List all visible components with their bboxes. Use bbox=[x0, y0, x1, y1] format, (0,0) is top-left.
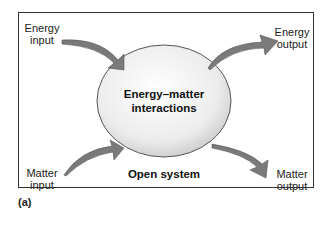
matter-output-line1: Matter bbox=[272, 168, 312, 180]
energy-output-line1: Energy bbox=[272, 26, 312, 38]
matter-output-arrow bbox=[212, 144, 268, 178]
center-label-line1: Energy–matter bbox=[114, 87, 214, 101]
energy-input-line2: input bbox=[22, 34, 62, 46]
matter-input-line2: input bbox=[22, 179, 62, 191]
center-label-line2: interactions bbox=[114, 101, 214, 115]
matter-output-label: Matter output bbox=[272, 168, 312, 192]
center-label: Energy–matter interactions bbox=[114, 87, 214, 115]
energy-input-line1: Energy bbox=[22, 22, 62, 34]
energy-output-label: Energy output bbox=[272, 26, 312, 50]
matter-input-label: Matter input bbox=[22, 167, 62, 191]
energy-output-arrow bbox=[208, 35, 278, 70]
energy-input-label: Energy input bbox=[22, 22, 62, 46]
matter-input-line1: Matter bbox=[22, 167, 62, 179]
system-title: Open system bbox=[114, 168, 214, 180]
energy-output-line2: output bbox=[272, 38, 312, 50]
figure-caption: (a) bbox=[18, 196, 31, 208]
matter-output-line2: output bbox=[272, 180, 312, 192]
energy-input-arrow bbox=[62, 40, 124, 70]
